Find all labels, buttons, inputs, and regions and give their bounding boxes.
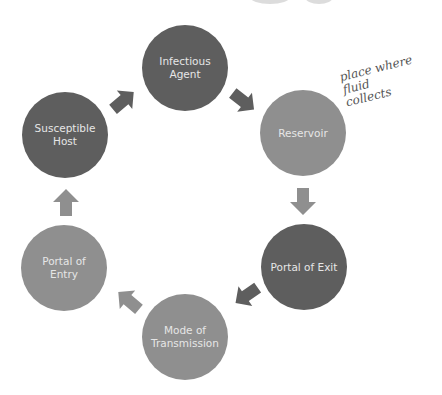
node-label: Infectious Agent bbox=[142, 55, 228, 81]
arrow-icon-exit-to-transmission bbox=[230, 278, 264, 312]
cropped-shape-fragment bbox=[250, 0, 290, 4]
node-mode-of-transmission: Mode of Transmission bbox=[142, 294, 228, 380]
node-label: Portal of Exit bbox=[265, 261, 344, 274]
cropped-shape-fragment bbox=[305, 0, 333, 4]
node-label: Reservoir bbox=[272, 127, 333, 140]
handwritten-annotation: place where fluid collects bbox=[338, 54, 419, 110]
arrow-icon-agent-to-reservoir bbox=[226, 84, 260, 118]
node-label: Portal of Entry bbox=[21, 255, 107, 281]
arrow-icon-transmission-to-entry bbox=[112, 284, 146, 318]
arrow-icon-entry-to-host bbox=[51, 188, 81, 218]
node-infectious-agent: Infectious Agent bbox=[142, 25, 228, 111]
arrow-icon-host-to-agent bbox=[106, 84, 140, 118]
node-susceptible-host: Susceptible Host bbox=[22, 92, 108, 178]
arrow-icon-reservoir-to-exit bbox=[288, 186, 318, 216]
node-portal-of-entry: Portal of Entry bbox=[21, 225, 107, 311]
node-label: Susceptible Host bbox=[22, 122, 108, 148]
node-reservoir: Reservoir bbox=[260, 90, 346, 176]
node-label: Mode of Transmission bbox=[142, 324, 228, 350]
chain-of-infection-diagram: Infectious Agent Reservoir Portal of Exi… bbox=[0, 0, 442, 395]
node-portal-of-exit: Portal of Exit bbox=[261, 224, 347, 310]
